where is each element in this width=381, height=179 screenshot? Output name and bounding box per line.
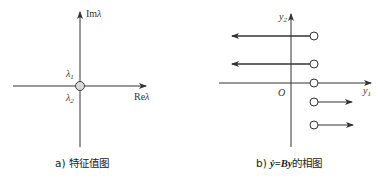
im-prefix: Im [86,8,97,19]
lambda-symbol: λ [97,8,101,19]
eigenvalue-lambda2-label: λ2 [66,93,74,105]
subscript: 1 [367,90,371,98]
re-axis-label: Reλ [134,92,149,102]
eigenvalue-lambda1-label: λ1 [66,69,74,81]
matrix-B-y: By [281,158,293,169]
subscript: 2 [70,97,74,105]
y2-axis-label: y2 [279,12,287,24]
equilibrium-circle [310,79,318,87]
caption-b: b) ẏ=By的相图 [256,158,322,170]
panel-b-phase-portrait [219,14,371,147]
origin-label: O [278,88,285,98]
equilibrium-circle [310,32,318,40]
y1-axis-label: y1 [363,86,371,98]
equilibrium-circle [310,121,318,129]
subscript: 1 [70,73,74,81]
equilibrium-circle [310,98,318,106]
eigenvalue-marker [76,82,85,91]
diagram-canvas [0,0,381,179]
subscript: 2 [283,16,287,24]
panel-a-eigenvalue-plot [13,12,146,147]
im-axis-label: Imλ [86,9,101,19]
lambda-symbol: λ [145,91,149,102]
caption-suffix: 的相图 [292,157,322,169]
caption-prefix: b) [256,157,270,169]
caption-a: a) 特征值图 [55,158,109,169]
equilibrium-circle [310,60,318,68]
re-prefix: Re [134,91,145,102]
